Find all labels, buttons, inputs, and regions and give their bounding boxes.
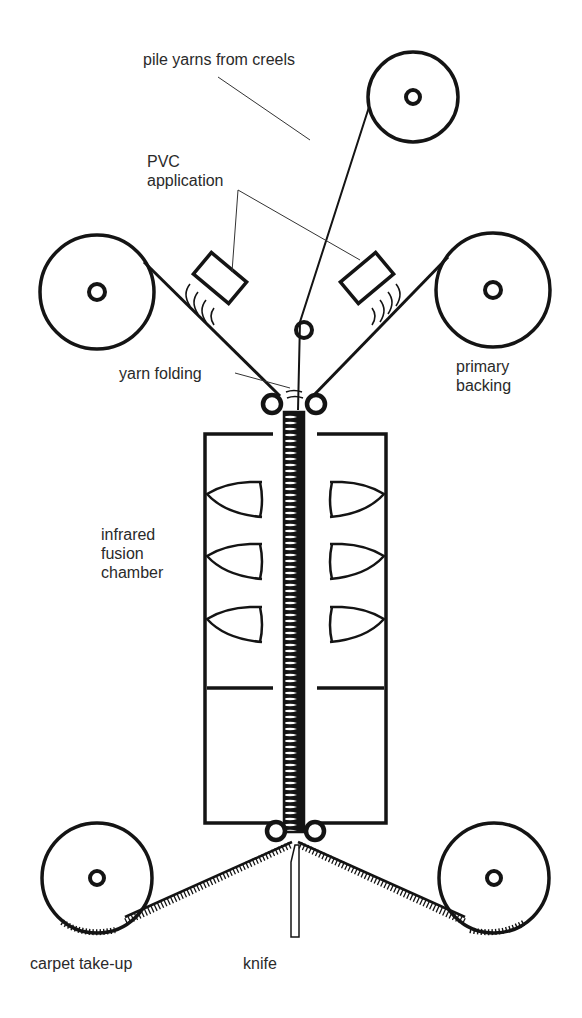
heater-right-3 [330,607,384,642]
guide-roller [296,322,312,338]
heater-right-1 [330,482,384,517]
label-primary-line1: primary [456,357,511,376]
label-knife: knife [243,954,277,973]
label-infrared-line3: chamber [101,563,163,582]
carpet-web-left [125,842,292,922]
backing-roll-right [436,233,550,347]
creel-roll [368,52,458,142]
label-yarn-folding: yarn folding [119,364,202,383]
label-carpet-takeup: carpet take-up [30,954,132,973]
label-infrared-line1: infrared [101,525,163,544]
carpet-process-diagram [0,0,582,1018]
label-pvc-application: PVC application [147,152,224,190]
takeup-roll-right [439,823,549,933]
label-infrared-line2: fusion [101,544,163,563]
heater-left-1 [207,482,262,517]
knife [291,845,299,937]
backing-roll-left [40,235,154,349]
heater-left-3 [207,607,262,642]
heater-right-2 [330,544,384,579]
label-pile-yarns: pile yarns from creels [143,50,295,69]
label-pvc-line2: application [147,171,224,190]
nip-rollers-top [263,391,325,414]
label-primary-backing: primary backing [456,357,511,395]
label-infrared-fusion-chamber: infrared fusion chamber [101,525,163,582]
heater-left-2 [207,544,262,579]
label-primary-line2: backing [456,376,511,395]
carpet-column [284,412,304,832]
label-pvc-line1: PVC [147,152,224,171]
